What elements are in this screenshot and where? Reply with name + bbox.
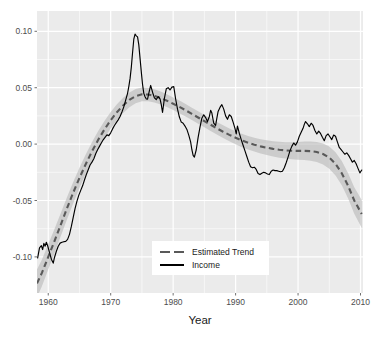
x-tick-label: 2000 xyxy=(289,297,308,307)
x-tick-label: 1960 xyxy=(39,297,58,307)
x-axis-title: Year xyxy=(188,314,211,326)
x-tick-label: 1980 xyxy=(164,297,183,307)
legend-label-income: Income xyxy=(192,260,220,270)
legend-label-estimated-trend: Estimated Trend xyxy=(192,247,254,257)
y-tick-label: 0.00 xyxy=(15,139,32,149)
y-tick-label: -0.05 xyxy=(13,196,33,206)
chart-legend: Estimated Trend Income xyxy=(152,241,269,275)
y-tick-label: 0.10 xyxy=(15,26,32,36)
x-tick-label: 2010 xyxy=(351,297,370,307)
income-trend-chart: -0.10-0.050.000.050.10 19601970198019902… xyxy=(0,0,377,339)
x-tick-label: 1970 xyxy=(101,297,120,307)
y-tick-label: 0.05 xyxy=(15,83,32,93)
y-tick-label: -0.10 xyxy=(13,252,33,262)
chart-container: -0.10-0.050.000.050.10 19601970198019902… xyxy=(0,0,377,339)
x-tick-label: 1990 xyxy=(226,297,245,307)
